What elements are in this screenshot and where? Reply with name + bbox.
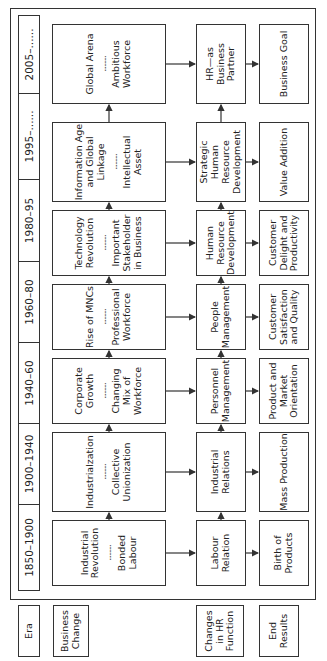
flow-arrows [0,0,327,661]
hr-evolution-diagram: Era Business Change Changes in HR Functi… [0,0,327,661]
